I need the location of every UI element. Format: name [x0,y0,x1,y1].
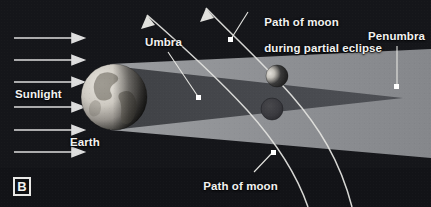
eclipse-diagram-figure: Sunlight Earth Umbra Penumbra Path of mo… [0,0,431,207]
label-earth: Earth [70,136,100,149]
label-path-total-eclipse: Path of moon during total eclipse [190,167,311,207]
label-sunlight: Sunlight [15,88,62,101]
leader-dot-umbra [196,95,201,100]
label-path-partial-line2: during partial eclipse [264,42,382,54]
panel-letter-badge: B [13,177,31,196]
label-umbra: Umbra [145,36,182,49]
earth-sphere [81,64,147,130]
leader-dot-path-partial [228,37,233,42]
moon-partial-eclipse [266,65,288,87]
label-path-total-line2: during total eclipse [203,206,310,207]
label-path-partial-line1: Path of moon [264,16,339,28]
leader-dot-penumbra [394,84,399,89]
leader-dot-path-total [271,150,276,155]
moon-total-eclipse [261,98,283,120]
label-path-total-line1: Path of moon [203,180,278,192]
label-path-partial-eclipse: Path of moon during partial eclipse [251,3,382,68]
